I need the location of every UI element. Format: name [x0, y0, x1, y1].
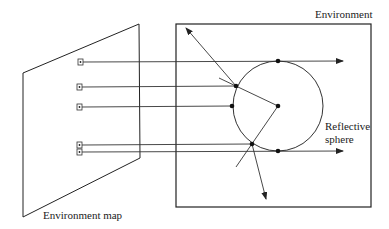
- ray-middle: [82, 106, 232, 107]
- reflective-sphere-label-1: Reflective: [325, 120, 370, 132]
- environment-box: [176, 24, 371, 207]
- point-top: [276, 59, 281, 64]
- point-bottom: [276, 149, 281, 154]
- ray-upper: [82, 86, 236, 87]
- environment-mapping-diagram: Environment Environment map Reflective s…: [0, 0, 389, 229]
- environment-map-label: Environment map: [43, 209, 123, 221]
- reflected-ray-up: [186, 28, 236, 86]
- point-center: [276, 104, 281, 109]
- normal-upper: [219, 78, 278, 106]
- reflective-sphere-label-2: sphere: [325, 133, 354, 145]
- point-left: [230, 104, 235, 109]
- ray-lower: [82, 144, 252, 145]
- incident-rays: [82, 61, 343, 152]
- reflected-ray-down: [252, 144, 266, 199]
- environment-label: Environment: [315, 8, 372, 20]
- point-lower-left: [250, 142, 255, 147]
- environment-map-plane: [23, 24, 140, 217]
- point-upper-left: [234, 84, 239, 89]
- ray-bottom: [82, 151, 343, 152]
- normal-lower: [236, 106, 278, 167]
- ray-top: [83, 61, 343, 62]
